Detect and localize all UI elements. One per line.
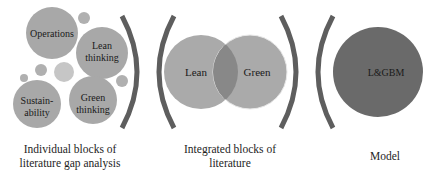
caption-model-text: Model xyxy=(355,149,415,163)
caption-integrated-blocks-line1: Integrated blocks of xyxy=(160,142,300,156)
small-circle xyxy=(78,12,90,24)
caption-individual-blocks-line2: literature gap analysis xyxy=(0,156,140,170)
caption-individual-blocks-line1: Individual blocks of xyxy=(0,142,140,156)
green-thinking-label-1: Green xyxy=(81,92,105,103)
caption-integrated-blocks: Integrated blocks of literature xyxy=(160,142,300,170)
small-circle xyxy=(116,75,128,87)
small-circle xyxy=(54,62,74,82)
operations-label: Operations xyxy=(30,28,74,39)
lean-label: Lean xyxy=(185,66,207,78)
green-thinking-label-2: thinking xyxy=(76,104,109,115)
small-circle xyxy=(35,64,47,76)
lean-thinking-label-2: thinking xyxy=(85,52,118,63)
sustainability-label-2: ability xyxy=(24,107,50,118)
opening-bracket-2 xyxy=(318,16,333,128)
green-label: Green xyxy=(244,66,271,78)
small-circle xyxy=(20,74,28,82)
individual-blocks-group: Operations Lean thinking Sustain- abilit… xyxy=(13,7,128,128)
sustainability-label-1: Sustain- xyxy=(21,95,54,106)
caption-individual-blocks: Individual blocks of literature gap anal… xyxy=(0,142,140,170)
lgbm-label: L&GBM xyxy=(368,67,405,78)
lean-thinking-label-1: Lean xyxy=(92,40,112,51)
model-group: L&GBM xyxy=(333,27,423,117)
caption-model: Model xyxy=(355,149,415,163)
venn-diagram: Lean Green xyxy=(164,35,287,109)
caption-integrated-blocks-line2: literature xyxy=(160,156,300,170)
closing-bracket-1 xyxy=(122,16,137,128)
